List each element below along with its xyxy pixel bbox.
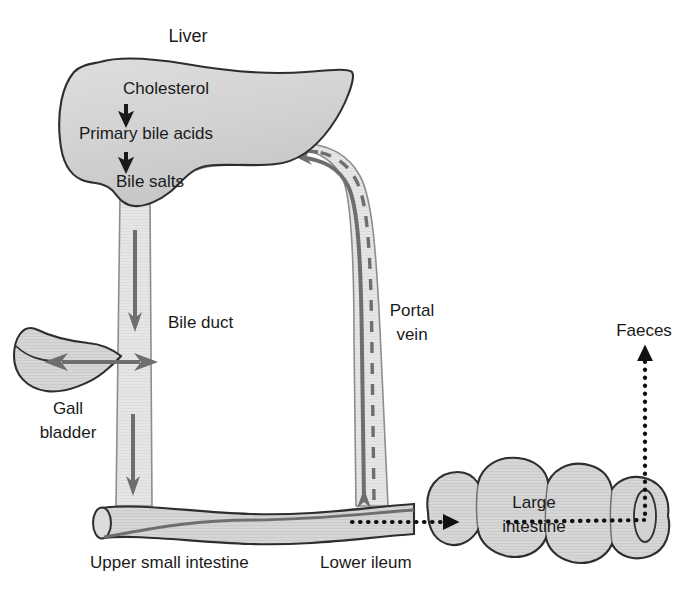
small-intestine-open-end (93, 508, 111, 539)
enterohepatic-circulation-diagram: Liver Cholesterol Primary bile acids Bil… (0, 0, 686, 599)
label-portal-vein-line2: vein (396, 325, 427, 344)
diagram-canvas: Liver Cholesterol Primary bile acids Bil… (0, 0, 686, 599)
label-faeces: Faeces (616, 321, 672, 340)
small-intestine-group (93, 504, 414, 544)
portal-vein-vessel (302, 143, 388, 506)
page-title-liver: Liver (168, 26, 207, 46)
small-intestine-tube (102, 504, 414, 544)
label-large-intestine-line1: Large (512, 493, 555, 512)
gall-bladder-shape (14, 328, 121, 391)
label-primary-bile-acids: Primary bile acids (79, 124, 213, 143)
bile-duct-group (116, 196, 152, 506)
label-portal-vein-line1: Portal (390, 301, 434, 320)
label-bile-duct: Bile duct (168, 313, 233, 332)
label-bile-salts: Bile salts (116, 172, 184, 191)
label-upper-small-intestine: Upper small intestine (90, 553, 249, 572)
portal-vein-group (228, 137, 388, 508)
label-gall-bladder-line2: bladder (40, 423, 97, 442)
label-lower-ileum: Lower ileum (320, 553, 412, 572)
label-large-intestine-line2: intestine (502, 517, 565, 536)
label-cholesterol: Cholesterol (123, 79, 209, 98)
label-gall-bladder-line1: Gall (53, 399, 83, 418)
